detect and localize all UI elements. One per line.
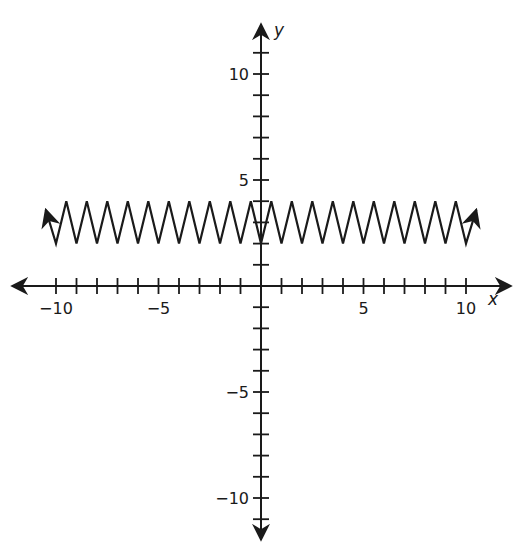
- svg-text:5: 5: [239, 171, 249, 190]
- x-axis-label: x: [487, 289, 499, 309]
- svg-text:10: 10: [456, 299, 476, 318]
- svg-text:−5: −5: [147, 299, 171, 318]
- svg-text:−5: −5: [225, 383, 249, 402]
- y-axis-label: y: [273, 20, 285, 40]
- svg-text:10: 10: [229, 65, 249, 84]
- svg-text:5: 5: [358, 299, 368, 318]
- coordinate-plane: −10−5510 105−5−10 x y: [0, 0, 515, 544]
- svg-text:−10: −10: [215, 489, 249, 508]
- svg-text:−10: −10: [39, 299, 73, 318]
- x-axis-tick-labels: −10−5510: [39, 299, 476, 318]
